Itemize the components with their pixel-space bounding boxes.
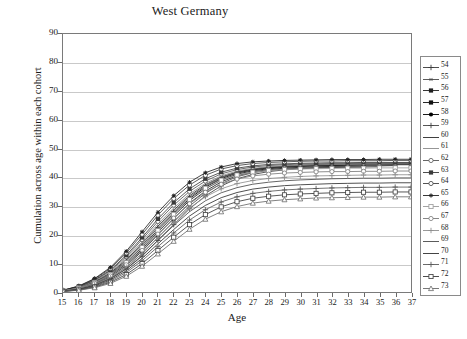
series-marker bbox=[266, 176, 271, 181]
series-marker bbox=[329, 173, 334, 178]
series-marker bbox=[377, 185, 382, 190]
series-marker bbox=[234, 181, 239, 186]
legend-item[interactable]: 56 bbox=[421, 82, 460, 94]
y-tick-label: 80 bbox=[24, 56, 58, 66]
legend-marker-icon bbox=[421, 175, 441, 186]
series-marker bbox=[298, 192, 302, 196]
legend-item[interactable]: 63 bbox=[421, 163, 460, 175]
legend-label: 64 bbox=[441, 175, 449, 186]
legend-label: 56 bbox=[441, 82, 449, 93]
y-tick-label: 10 bbox=[24, 258, 58, 268]
legend-item[interactable]: 57 bbox=[421, 94, 460, 106]
y-axis-tick-labels: 0102030405060708090 bbox=[24, 26, 58, 300]
y-tick-label: 0 bbox=[24, 287, 58, 297]
legend-item[interactable]: 64 bbox=[421, 175, 460, 187]
series-marker bbox=[234, 194, 239, 199]
legend-item[interactable]: 68 bbox=[421, 221, 460, 233]
series-marker bbox=[282, 171, 286, 175]
series-marker bbox=[346, 190, 350, 194]
y-tick-label: 30 bbox=[24, 200, 58, 210]
legend-item[interactable]: 62 bbox=[421, 152, 460, 164]
legend-label: 73 bbox=[441, 280, 449, 291]
legend-marker-icon bbox=[421, 198, 441, 209]
legend-label: 70 bbox=[441, 245, 449, 256]
legend-marker-icon bbox=[421, 233, 441, 244]
legend-item[interactable]: 66 bbox=[421, 198, 460, 210]
legend-item[interactable]: 70 bbox=[421, 245, 460, 257]
legend-item[interactable]: 61 bbox=[421, 140, 460, 152]
series-marker bbox=[392, 184, 397, 189]
series-marker bbox=[219, 165, 223, 169]
series-marker bbox=[346, 157, 350, 161]
legend-item[interactable]: 69 bbox=[421, 233, 460, 245]
legend-item[interactable]: 71 bbox=[421, 256, 460, 268]
series-marker bbox=[314, 158, 318, 162]
series-marker bbox=[219, 205, 223, 209]
series-marker bbox=[203, 190, 207, 194]
legend-label: 59 bbox=[441, 117, 449, 128]
series-marker bbox=[282, 175, 287, 180]
series-marker bbox=[187, 198, 191, 202]
series-marker bbox=[251, 196, 255, 200]
y-tick-label: 50 bbox=[24, 143, 58, 153]
legend-label: 72 bbox=[441, 268, 449, 279]
series-marker bbox=[408, 184, 411, 189]
series-marker bbox=[187, 227, 192, 232]
series-marker bbox=[235, 173, 239, 177]
y-tick-label: 90 bbox=[24, 27, 58, 37]
series-marker bbox=[345, 185, 350, 190]
legend-marker-icon bbox=[421, 129, 441, 140]
legend-item[interactable]: 65 bbox=[421, 187, 460, 199]
series-marker bbox=[361, 185, 366, 190]
plot-area bbox=[62, 33, 412, 293]
legend-label: 60 bbox=[441, 129, 449, 140]
legend-label: 62 bbox=[441, 152, 449, 163]
legend-item[interactable]: 72 bbox=[421, 268, 460, 280]
chart-root: West Germany Cumulation across age withi… bbox=[0, 0, 467, 339]
legend-marker-icon bbox=[421, 140, 441, 151]
series-marker bbox=[298, 158, 302, 162]
series-marker bbox=[267, 172, 271, 176]
legend-item[interactable]: 73 bbox=[421, 279, 460, 291]
x-axis-title: Age bbox=[62, 311, 412, 323]
series-marker bbox=[377, 157, 381, 161]
series-marker bbox=[203, 186, 207, 190]
legend-label: 65 bbox=[441, 187, 449, 198]
series-marker bbox=[282, 187, 287, 192]
legend-marker-icon bbox=[421, 59, 441, 70]
series-marker bbox=[267, 194, 271, 198]
series-marker bbox=[329, 185, 334, 190]
legend-marker-icon bbox=[421, 94, 441, 105]
series-marker bbox=[250, 191, 255, 196]
legend-item[interactable]: 58 bbox=[421, 105, 460, 117]
series-marker bbox=[203, 207, 208, 212]
series-marker bbox=[345, 173, 350, 178]
series-marker bbox=[187, 202, 191, 206]
series-lines bbox=[63, 34, 411, 292]
series-marker bbox=[203, 217, 208, 222]
legend-label: 61 bbox=[441, 140, 449, 151]
y-tick-label: 60 bbox=[24, 114, 58, 124]
series-marker bbox=[392, 172, 397, 177]
legend-item[interactable]: 54 bbox=[421, 59, 460, 71]
series-marker bbox=[393, 157, 397, 161]
series-marker bbox=[298, 174, 303, 179]
legend-marker-icon bbox=[421, 210, 441, 221]
legend-label: 55 bbox=[441, 71, 449, 82]
series-marker bbox=[282, 158, 286, 162]
series-marker bbox=[282, 193, 286, 197]
legend-marker-icon bbox=[421, 106, 441, 117]
legend-label: 69 bbox=[441, 233, 449, 244]
series-marker bbox=[377, 190, 381, 194]
series-marker bbox=[313, 186, 318, 191]
series-marker bbox=[361, 172, 366, 177]
legend-item[interactable]: 59 bbox=[421, 117, 460, 129]
legend[interactable]: 5455565758596061626364656667686970717273 bbox=[420, 56, 461, 296]
series-marker bbox=[218, 199, 223, 204]
legend-marker-icon bbox=[421, 82, 441, 93]
legend-item[interactable]: 67 bbox=[421, 210, 460, 222]
legend-item[interactable]: 60 bbox=[421, 129, 460, 141]
legend-item[interactable]: 55 bbox=[421, 71, 460, 83]
legend-label: 58 bbox=[441, 106, 449, 117]
legend-label: 54 bbox=[441, 59, 449, 70]
